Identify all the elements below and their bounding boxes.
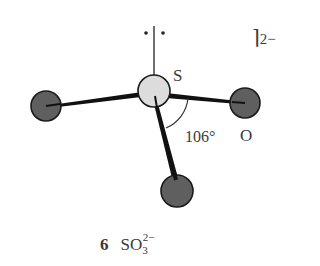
bond-angle-label: 106° xyxy=(185,129,215,145)
charge-indicator: ⌉2− xyxy=(252,27,276,47)
formula-main: SO xyxy=(121,235,143,254)
formula-subscript: 3 xyxy=(142,244,148,256)
bond-s-o-left xyxy=(58,92,142,107)
atom-sulfur xyxy=(138,75,170,107)
lone-pair-dot-right xyxy=(161,31,165,35)
bond-angle-arc xyxy=(166,98,188,128)
bond-s-o-bottom xyxy=(153,100,178,178)
oxygen-label: O xyxy=(240,127,252,144)
bond-s-o-right xyxy=(166,93,238,104)
formula-superscript: 2− xyxy=(143,231,155,243)
sulfur-label: S xyxy=(173,67,182,84)
figure-caption: 6SO32− xyxy=(100,232,154,256)
bond-end-bottom xyxy=(174,172,176,180)
charge-value: 2− xyxy=(260,31,276,47)
lone-pair-dot-left xyxy=(144,31,148,35)
bond-end-right xyxy=(232,102,245,103)
atom-oxygen-bottom xyxy=(161,175,193,207)
figure-number: 6 xyxy=(100,235,109,254)
charge-bracket: ⌉ xyxy=(252,26,260,48)
